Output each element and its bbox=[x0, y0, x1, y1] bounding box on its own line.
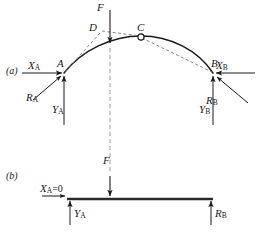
label-force-RA-symbol: R bbox=[26, 91, 33, 103]
label-force-YA-beam: YA bbox=[74, 208, 86, 220]
force-arrow-RB-arch bbox=[217, 77, 248, 103]
label-force-YA: YA bbox=[52, 104, 64, 116]
diagram-canvas bbox=[0, 0, 277, 243]
panel-label-a: (a) bbox=[6, 66, 18, 76]
panel-label-b: (b) bbox=[6, 171, 18, 181]
label-force-XA-subscript: A bbox=[35, 63, 40, 72]
label-node-C: C bbox=[137, 22, 144, 33]
dashed-chord-D-A bbox=[65, 33, 100, 72]
label-force-XB-subscript: B bbox=[223, 63, 228, 72]
label-force-RB-arch-subscript: B bbox=[213, 98, 218, 107]
label-force-RB-beam: RB bbox=[215, 208, 227, 220]
label-force-YA-subscript: A bbox=[58, 107, 63, 116]
crown-hinge-marker-C bbox=[138, 34, 144, 40]
label-node-A: A bbox=[57, 58, 64, 69]
label-force-F-beam: F bbox=[103, 155, 110, 166]
label-force-YA-beam-subscript: A bbox=[80, 211, 85, 220]
label-force-XA-zero: XA=0 bbox=[40, 183, 63, 195]
label-node-D: D bbox=[89, 22, 97, 33]
label-force-XA-zero-equals: =0 bbox=[52, 183, 63, 194]
arch-curve bbox=[64, 36, 213, 73]
label-force-XA-zero-symbol: X bbox=[40, 182, 47, 194]
label-force-XA-symbol: X bbox=[28, 59, 35, 71]
label-force-XB-symbol: X bbox=[216, 59, 223, 71]
label-force-RB-beam-subscript: B bbox=[222, 211, 227, 220]
dashed-chord-D-C bbox=[102, 31, 140, 36]
label-force-RA: RA bbox=[26, 92, 38, 104]
label-force-YB: YB bbox=[199, 104, 210, 116]
label-force-XB: XB bbox=[216, 60, 228, 72]
label-force-XA: XA bbox=[28, 60, 40, 72]
figure-root: (a) F D C A B XA XB RA RB YA YB (b) F XA… bbox=[0, 0, 277, 243]
label-force-YB-subscript: B bbox=[205, 107, 210, 116]
label-force-RA-subscript: A bbox=[33, 95, 38, 104]
label-force-F-arch: F bbox=[97, 2, 104, 13]
label-force-RB-beam-symbol: R bbox=[215, 207, 222, 219]
